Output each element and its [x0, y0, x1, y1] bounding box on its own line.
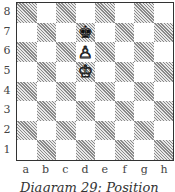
square-b8 [37, 3, 57, 23]
square-e1 [95, 140, 115, 160]
square-a6 [17, 42, 37, 62]
square-a7 [17, 23, 37, 43]
square-h7 [154, 23, 174, 43]
square-d4 [76, 82, 96, 102]
square-d1 [76, 140, 96, 160]
rank-label-8: 8 [0, 2, 14, 22]
square-f1 [115, 140, 135, 160]
square-g7 [134, 23, 154, 43]
rank-label-3: 3 [0, 100, 14, 120]
file-label-b: b [36, 163, 56, 176]
file-label-g: g [135, 163, 155, 176]
square-g3 [134, 101, 154, 121]
square-c3 [56, 101, 76, 121]
rank-label-6: 6 [0, 41, 14, 61]
square-d8 [76, 3, 96, 23]
square-c4 [56, 82, 76, 102]
square-c6 [56, 42, 76, 62]
square-g6 [134, 42, 154, 62]
square-g8 [134, 3, 154, 23]
white-king-icon: ♔ [78, 63, 93, 80]
square-d3 [76, 101, 96, 121]
square-h8 [154, 3, 174, 23]
white-pawn-icon: ♙ [78, 44, 93, 61]
file-label-a: a [16, 163, 36, 176]
file-label-e: e [95, 163, 115, 176]
rank-label-4: 4 [0, 81, 14, 101]
square-g2 [134, 121, 154, 141]
square-d5: ♔ [76, 62, 96, 82]
black-king-icon: ♚ [78, 24, 93, 41]
square-d6: ♙ [76, 42, 96, 62]
square-f2 [115, 121, 135, 141]
square-e7 [95, 23, 115, 43]
rank-label-2: 2 [0, 120, 14, 140]
square-e2 [95, 121, 115, 141]
rank-label-7: 7 [0, 22, 14, 42]
square-a1 [17, 140, 37, 160]
square-a4 [17, 82, 37, 102]
rank-labels: 8 7 6 5 4 3 2 1 [0, 2, 14, 160]
rank-label-1: 1 [0, 140, 14, 160]
square-g1 [134, 140, 154, 160]
square-e6 [95, 42, 115, 62]
file-labels: a b c d e f g h [16, 163, 174, 176]
file-label-h: h [154, 163, 174, 176]
chess-board: ♚♙♔ [16, 2, 174, 161]
square-b6 [37, 42, 57, 62]
square-e4 [95, 82, 115, 102]
file-label-f: f [115, 163, 135, 176]
diagram-caption: Diagram 29: Position [20, 180, 159, 192]
square-h4 [154, 82, 174, 102]
square-f8 [115, 3, 135, 23]
square-h5 [154, 62, 174, 82]
square-f4 [115, 82, 135, 102]
file-label-c: c [56, 163, 76, 176]
square-h3 [154, 101, 174, 121]
square-b2 [37, 121, 57, 141]
square-c7 [56, 23, 76, 43]
square-g5 [134, 62, 154, 82]
square-b5 [37, 62, 57, 82]
square-f7 [115, 23, 135, 43]
square-c5 [56, 62, 76, 82]
square-c8 [56, 3, 76, 23]
file-label-d: d [75, 163, 95, 176]
square-f3 [115, 101, 135, 121]
square-g4 [134, 82, 154, 102]
rank-label-5: 5 [0, 61, 14, 81]
square-c1 [56, 140, 76, 160]
square-b3 [37, 101, 57, 121]
square-e8 [95, 3, 115, 23]
square-a8 [17, 3, 37, 23]
square-e3 [95, 101, 115, 121]
square-d7: ♚ [76, 23, 96, 43]
square-b4 [37, 82, 57, 102]
square-f5 [115, 62, 135, 82]
square-a3 [17, 101, 37, 121]
square-h2 [154, 121, 174, 141]
square-f6 [115, 42, 135, 62]
square-a5 [17, 62, 37, 82]
square-e5 [95, 62, 115, 82]
square-h1 [154, 140, 174, 160]
square-b7 [37, 23, 57, 43]
square-c2 [56, 121, 76, 141]
square-d2 [76, 121, 96, 141]
square-b1 [37, 140, 57, 160]
square-a2 [17, 121, 37, 141]
square-h6 [154, 42, 174, 62]
